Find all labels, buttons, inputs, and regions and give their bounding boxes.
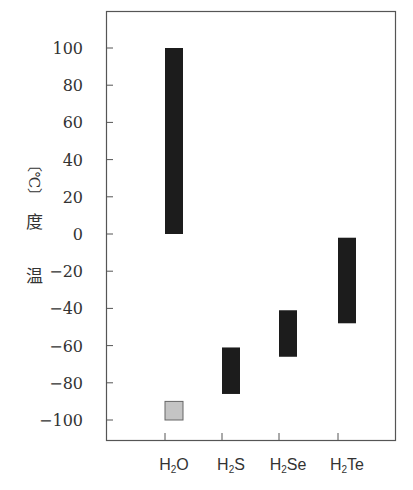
chart: 100806040200−20−40−60−80−100 H2OH2SH2SeH…: [0, 0, 413, 490]
plot-frame: [107, 12, 396, 441]
y-tick-label: 80: [63, 76, 83, 95]
x-tick-label: H2Te: [330, 456, 364, 475]
liquid-range-bar: [338, 238, 356, 324]
y-axis-label-char: 度: [24, 208, 44, 233]
y-tick-label: 40: [63, 151, 83, 170]
expected-range-bar: [165, 401, 183, 420]
y-tick-label: 100: [52, 39, 83, 58]
x-axis: H2OH2SH2SeH2Te: [159, 433, 364, 475]
y-tick-label: 60: [63, 113, 83, 132]
y-tick-label: −20: [49, 262, 83, 281]
liquid-range-bar: [165, 48, 183, 234]
liquid-range-bar: [279, 310, 297, 357]
y-tick-label: −100: [39, 411, 83, 430]
y-tick-label: −40: [49, 299, 83, 318]
y-tick-label: −60: [49, 337, 83, 356]
x-tick-label: H2S: [217, 456, 245, 475]
liquid-range-bar: [222, 347, 240, 394]
y-axis: 100806040200−20−40−60−80−100: [39, 39, 113, 430]
y-axis-label-char: 温: [24, 262, 44, 287]
y-tick-label: 0: [73, 225, 83, 244]
x-tick-label: H2O: [159, 456, 189, 475]
y-tick-label: −80: [49, 374, 83, 393]
x-tick-label: H2Se: [270, 456, 307, 475]
bars: [165, 48, 356, 420]
y-axis-label-char: 〔℃〕: [25, 157, 46, 191]
y-tick-label: 20: [63, 188, 83, 207]
